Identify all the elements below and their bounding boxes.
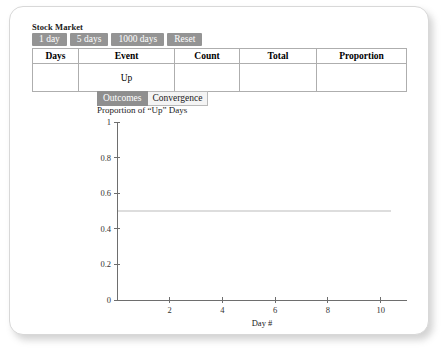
svg-text:8: 8 (326, 305, 330, 315)
svg-text:10: 10 (376, 305, 385, 315)
outcomes-table: Days Event Count Total Proportion Up (32, 48, 407, 92)
svg-text:2: 2 (168, 305, 172, 315)
one-day-button[interactable]: 1 day (32, 33, 67, 46)
svg-text:0: 0 (107, 295, 111, 305)
tab-outcomes[interactable]: Outcomes (97, 91, 148, 106)
svg-text:0.4: 0.4 (100, 224, 111, 234)
thousand-days-button[interactable]: 1000 days (111, 33, 164, 46)
svg-text:0.8: 0.8 (100, 153, 111, 163)
svg-text:0.2: 0.2 (100, 259, 111, 269)
column-header-total: Total (240, 49, 317, 64)
toolbar: 1 day 5 days 1000 days Reset (32, 33, 202, 46)
column-header-days: Days (33, 49, 79, 64)
column-header-event: Event (79, 49, 175, 64)
table-row: Up (33, 64, 407, 92)
table-header-row: Days Event Count Total Proportion (33, 49, 407, 64)
x-axis-label: Day # (252, 318, 273, 328)
page-title: Stock Market (32, 22, 83, 32)
tab-bar: Outcomes Convergence (97, 91, 208, 106)
column-header-proportion: Proportion (317, 49, 407, 64)
cell-total (240, 64, 317, 92)
svg-text:6: 6 (273, 305, 277, 315)
app-card: Stock Market 1 day 5 days 1000 days Rese… (9, 6, 429, 335)
svg-text:0.6: 0.6 (100, 188, 111, 198)
svg-text:4: 4 (220, 305, 225, 315)
cell-count (175, 64, 240, 92)
cell-days (33, 64, 79, 92)
reset-button[interactable]: Reset (167, 33, 202, 46)
chart-title: Proportion of “Up” Days (97, 105, 187, 115)
five-days-button[interactable]: 5 days (70, 33, 109, 46)
cell-proportion (317, 64, 407, 92)
column-header-count: Count (175, 49, 240, 64)
chart-panel: Proportion of “Up” Days 00.20.40.60.81 2… (97, 105, 417, 330)
tab-convergence[interactable]: Convergence (148, 91, 209, 106)
cell-event: Up (79, 64, 175, 92)
chart-svg: 00.20.40.60.81 246810 Day # (97, 116, 417, 330)
plot-area: 00.20.40.60.81 246810 Day # (97, 116, 417, 330)
svg-text:1: 1 (107, 117, 111, 127)
